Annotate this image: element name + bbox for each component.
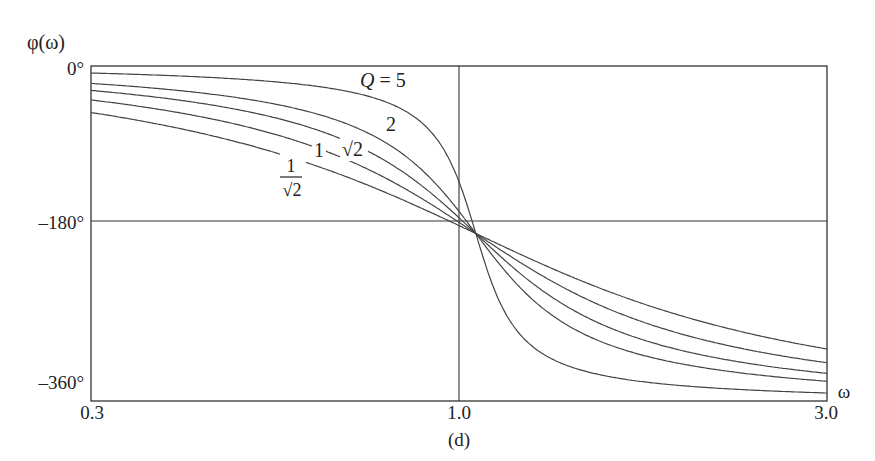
curve-label-qinv-den: √2 [283, 180, 302, 200]
x-tick-3-0: 3.0 [814, 402, 838, 423]
curve-label-qsqrt2: √2 [342, 138, 363, 160]
figure-caption: (d) [448, 429, 470, 451]
x-tick-1-0: 1.0 [447, 402, 471, 423]
curve-label-q5: Q = 5 [360, 69, 406, 91]
curve-label-q5-rest: = 5 [374, 69, 405, 91]
y-tick-180: –180° [37, 212, 84, 233]
curve-label-qinv-num: 1 [287, 156, 296, 176]
y-axis-label: φ(ω) [27, 31, 65, 54]
y-tick-0: 0° [67, 58, 84, 79]
x-axis-label: ω [838, 381, 851, 402]
x-tick-0-3: 0.3 [80, 402, 104, 423]
y-tick-360: –360° [37, 372, 84, 393]
curve-label-q2: 2 [386, 113, 396, 135]
curve-label-q1: 1 [314, 139, 324, 161]
phase-chart: φ(ω) 0° –180° –360° 0.3 1.0 3.0 ω (d) Q … [0, 0, 875, 461]
